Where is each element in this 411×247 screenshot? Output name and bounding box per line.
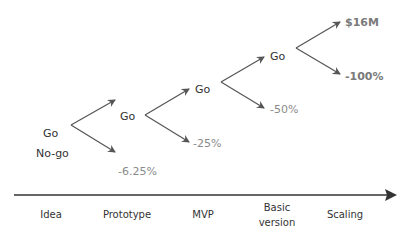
stage-basic-version: Basic version — [259, 200, 296, 230]
stage-prototype: Prototype — [103, 207, 151, 222]
final-loss-label: -100% — [345, 70, 384, 83]
node-3-loss-label: -50% — [270, 103, 298, 116]
node-2-go-label: Go — [195, 83, 210, 96]
branch-1-go-arrow — [71, 100, 115, 125]
branch-4-nogo-arrow — [296, 48, 340, 74]
final-outcome-label: $16M — [345, 16, 379, 29]
node-1-loss-label: -6.25% — [118, 165, 157, 178]
start-go-label: Go — [43, 127, 58, 140]
stage-scaling: Scaling — [327, 207, 363, 222]
start-nogo-label: No-go — [36, 147, 69, 160]
node-3-go-label: Go — [270, 50, 285, 63]
branch-2-nogo-arrow — [145, 115, 189, 142]
stage-basic-version-line2: version — [259, 215, 296, 230]
stage-basic-version-line1: Basic — [259, 200, 296, 215]
stage-mvp: MVP — [192, 207, 214, 222]
branch-4-go-arrow — [296, 22, 340, 48]
branch-1-nogo-arrow — [71, 125, 115, 152]
branch-3-nogo-arrow — [221, 82, 264, 108]
node-2-loss-label: -25% — [193, 137, 221, 150]
branch-2-go-arrow — [145, 89, 189, 115]
stage-idea: Idea — [40, 207, 62, 222]
node-1-go-label: Go — [120, 110, 135, 123]
branch-3-go-arrow — [221, 57, 264, 82]
